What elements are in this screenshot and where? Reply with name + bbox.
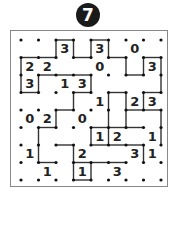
grid-dot (19, 178, 22, 181)
grid-dot (72, 143, 75, 146)
clue-number: 2 (43, 59, 52, 74)
grid-dot (37, 108, 40, 111)
grid-dot (89, 56, 92, 59)
clue-number: 3 (25, 76, 34, 91)
clue-number: 1 (95, 94, 104, 109)
grid-dot (37, 143, 40, 146)
grid-dot (159, 91, 162, 94)
grid-dot (142, 38, 145, 41)
grid-dot (37, 38, 40, 41)
grid-dot (37, 91, 40, 94)
grid-dot (124, 91, 127, 94)
grid-dot (54, 161, 57, 164)
clue-number: 2 (25, 59, 34, 74)
grid-dot (72, 178, 75, 181)
clue-number: 1 (148, 129, 157, 144)
grid-dot (124, 143, 127, 146)
grid-dot (142, 178, 145, 181)
grid-dot (107, 73, 110, 76)
grid-dot (54, 178, 57, 181)
grid-dot (54, 108, 57, 111)
grid-dot (19, 108, 22, 111)
grid-dot (159, 178, 162, 181)
clue-number: 3 (148, 59, 157, 74)
clue-number: 3 (95, 41, 104, 56)
grid-dot (54, 126, 57, 129)
slitherlink-grid[interactable]: 33022033131230201211231113 (10, 30, 170, 190)
grid-dot (124, 178, 127, 181)
grid-dot (54, 143, 57, 146)
clue-number: 1 (43, 164, 52, 179)
grid-dot (89, 143, 92, 146)
grid-dot (159, 108, 162, 111)
grid-dot (124, 56, 127, 59)
clue-number: 3 (113, 164, 122, 179)
clue-number: 2 (130, 94, 139, 109)
grid-dot (159, 73, 162, 76)
grid-dot (89, 108, 92, 111)
grid-dot (89, 38, 92, 41)
grid-dot (142, 56, 145, 59)
grid-dot (54, 73, 57, 76)
grid-dot (107, 56, 110, 59)
grid-dot (37, 126, 40, 129)
clue-number: 3 (148, 94, 157, 109)
clue-number: 1 (78, 164, 87, 179)
grid-dot (124, 38, 127, 41)
grid-dot (72, 91, 75, 94)
grid-dot (19, 126, 22, 129)
grid-dot (89, 91, 92, 94)
grid-dot (142, 91, 145, 94)
grid-dot (19, 56, 22, 59)
puzzle-board[interactable]: 33022033131230201211231113 (10, 30, 170, 194)
grid-dot (124, 73, 127, 76)
grid-dot (37, 73, 40, 76)
grid-dot (19, 38, 22, 41)
grid-dot (107, 161, 110, 164)
grid-dot (19, 91, 22, 94)
grid-dot (124, 108, 127, 111)
grid-dot (107, 126, 110, 129)
grid-dot (159, 161, 162, 164)
grid-dot (159, 56, 162, 59)
grid-dot (107, 178, 110, 181)
grid-dot (54, 56, 57, 59)
grid-dot (72, 38, 75, 41)
grid-dot (159, 38, 162, 41)
clue-number: 3 (78, 76, 87, 91)
grid-dot (89, 126, 92, 129)
grid-dot (72, 126, 75, 129)
grid-dot (72, 56, 75, 59)
grid-dot (124, 126, 127, 129)
grid-dot (54, 38, 57, 41)
clue-number: 1 (95, 129, 104, 144)
clue-number: 2 (113, 129, 122, 144)
grid-dot (19, 143, 22, 146)
grid-dot (72, 108, 75, 111)
grid-dot (142, 126, 145, 129)
clue-number: 0 (95, 59, 104, 74)
grid-dot (107, 143, 110, 146)
grid-dot (37, 56, 40, 59)
clue-number: 2 (43, 111, 52, 126)
clue-number: 1 (25, 146, 34, 161)
grid-dot (142, 108, 145, 111)
grid-dot (142, 143, 145, 146)
grid-dot (107, 91, 110, 94)
grid-dot (19, 73, 22, 76)
clue-number: 1 (148, 146, 157, 161)
clue-number: 0 (25, 111, 34, 126)
clue-number: 3 (130, 146, 139, 161)
grid-dot (89, 73, 92, 76)
grid-dot (159, 143, 162, 146)
grid-dot (72, 161, 75, 164)
grid-dot (54, 91, 57, 94)
grid-dot (107, 38, 110, 41)
grid-dot (72, 73, 75, 76)
grid-dot (159, 126, 162, 129)
grid-dot (107, 108, 110, 111)
grid-dot (124, 161, 127, 164)
grid-dot (89, 178, 92, 181)
clue-number: 0 (78, 111, 87, 126)
grid-dot (142, 161, 145, 164)
